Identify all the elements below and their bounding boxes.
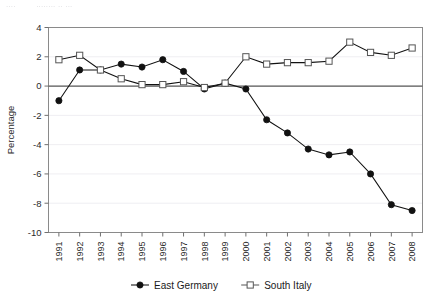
x-tick-label-1994: 1994 [116, 242, 126, 262]
series-east-germany [56, 57, 415, 214]
x-tick-label-2006: 2006 [366, 242, 376, 262]
x-tick-label-1993: 1993 [96, 242, 106, 262]
data-point-1-1995 [139, 82, 145, 88]
data-point-0-1992 [77, 67, 83, 73]
x-axis-ticks-group: 1991199219931994199519961997199819992000… [54, 233, 417, 262]
x-tick-label-2008: 2008 [407, 242, 417, 262]
legend-marker-filled-circle-icon [137, 282, 143, 288]
data-point-1-1999 [222, 80, 228, 86]
data-point-1-2008 [409, 45, 415, 51]
data-point-0-1991 [56, 98, 62, 104]
data-point-1-2006 [367, 49, 373, 55]
line-chart: 420-2-4-6-8-10 1991199219931994199519961… [0, 0, 431, 299]
data-series-layer [56, 39, 415, 214]
legend-label-0: East Germany [154, 280, 218, 291]
x-tick-label-1995: 1995 [137, 242, 147, 262]
x-tick-label-2002: 2002 [283, 242, 293, 262]
data-point-0-1995 [139, 64, 145, 70]
data-point-1-1991 [56, 57, 62, 63]
series-line-1 [59, 42, 412, 87]
plot-frame [49, 28, 423, 233]
y-tick-label--6: -6 [33, 168, 41, 179]
chart-legend: East GermanySouth Italy [131, 280, 311, 291]
x-tick-label-2004: 2004 [324, 242, 334, 262]
x-tick-label-1992: 1992 [75, 242, 85, 262]
x-tick-label-2003: 2003 [303, 242, 313, 262]
data-point-1-2000 [243, 54, 249, 60]
data-point-1-2003 [305, 60, 311, 66]
data-point-1-2002 [284, 60, 290, 66]
x-tick-label-1991: 1991 [54, 242, 64, 262]
legend-label-1: South Italy [264, 280, 311, 291]
plot-area-wrapper: 420-2-4-6-8-10 1991199219931994199519961… [0, 0, 431, 299]
x-tick-label-1998: 1998 [200, 242, 210, 262]
legend-marker-open-square-icon [247, 282, 253, 288]
data-point-0-2005 [347, 149, 353, 155]
legend-item-east-germany[interactable]: East Germany [131, 280, 218, 291]
data-point-0-2004 [326, 152, 332, 158]
y-axis-title-group: Percentage [5, 106, 16, 155]
data-point-0-1997 [180, 68, 186, 74]
y-tick-label--10: -10 [28, 227, 42, 238]
data-point-0-1996 [160, 57, 166, 63]
data-point-1-1993 [97, 67, 103, 73]
y-tick-label-2: 2 [36, 51, 41, 62]
gridlines-group [49, 57, 423, 203]
data-point-1-1996 [160, 82, 166, 88]
data-point-1-2005 [347, 39, 353, 45]
x-tick-label-2001: 2001 [262, 242, 272, 262]
data-point-1-1994 [118, 76, 124, 82]
data-point-0-2000 [243, 86, 249, 92]
data-point-0-2007 [388, 202, 394, 208]
data-point-0-2008 [409, 207, 415, 213]
series-line-0 [59, 60, 412, 211]
y-tick-label-4: 4 [36, 22, 41, 33]
data-point-1-2004 [326, 58, 332, 64]
data-point-0-2006 [367, 171, 373, 177]
legend-item-south-italy[interactable]: South Italy [241, 280, 311, 291]
x-tick-label-1996: 1996 [158, 242, 168, 262]
series-south-italy [56, 39, 415, 91]
x-tick-label-1999: 1999 [220, 242, 230, 262]
data-point-1-2007 [388, 52, 394, 58]
plot-frame-rect [49, 28, 423, 233]
data-point-1-1992 [77, 52, 83, 58]
data-point-0-2003 [305, 146, 311, 152]
y-tick-label--2: -2 [33, 110, 41, 121]
data-point-0-2002 [284, 130, 290, 136]
data-point-1-2001 [264, 61, 270, 67]
y-axis-title: Percentage [5, 106, 16, 155]
x-tick-label-1997: 1997 [179, 242, 189, 262]
y-tick-label--4: -4 [33, 139, 41, 150]
y-tick-label-0: 0 [36, 80, 41, 91]
y-axis-ticks-group: 420-2-4-6-8-10 [28, 22, 49, 238]
data-point-1-1997 [180, 79, 186, 85]
y-tick-label--8: -8 [33, 198, 41, 209]
data-point-1-1998 [201, 84, 207, 90]
figure-container: .... ........ .. ... 420-2-4-6-8-10 1991… [0, 0, 431, 299]
x-tick-label-2005: 2005 [345, 242, 355, 262]
data-point-0-2001 [264, 117, 270, 123]
data-point-0-1994 [118, 61, 124, 67]
x-tick-label-2007: 2007 [387, 242, 397, 262]
x-tick-label-2000: 2000 [241, 242, 251, 262]
